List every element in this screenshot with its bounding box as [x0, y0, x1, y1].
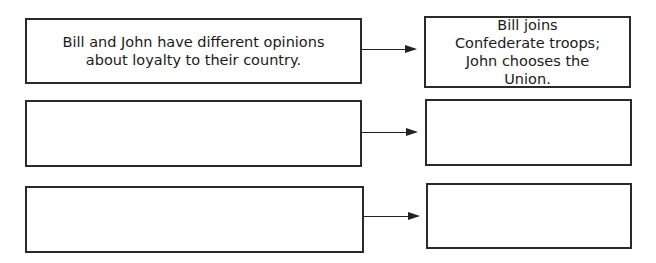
arrow-2: [361, 132, 416, 133]
arrow-3: [363, 216, 418, 217]
effect-box-2[interactable]: [425, 99, 632, 166]
cause-text-1: Bill and John have different opinions ab…: [59, 33, 329, 69]
cause-box-3[interactable]: [25, 186, 364, 253]
effect-box-1: Bill joins Confederate troops; John choo…: [424, 16, 631, 88]
effect-box-3[interactable]: [426, 183, 632, 249]
effect-text-1: Bill joins Confederate troops; John choo…: [453, 16, 603, 88]
cause-box-1: Bill and John have different opinions ab…: [25, 18, 362, 84]
arrow-1: [361, 49, 415, 50]
cause-box-2[interactable]: [25, 100, 362, 167]
